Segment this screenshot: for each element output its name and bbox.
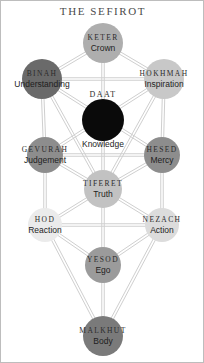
sefirah-meaning-tiferet: Truth	[93, 189, 113, 199]
sefirah-name-binah: BINAH	[27, 69, 58, 78]
sefirah-meaning-hokhmah: Inspiration	[144, 79, 183, 89]
sefirah-meaning-hod: Reaction	[28, 225, 62, 235]
sefirah-node-keter[interactable]: KETERCrown	[83, 23, 123, 63]
sefirah-meaning-gevurah: Judgement	[24, 155, 67, 165]
sefirah-node-hokhmah[interactable]: HOKHMAHInspiration	[140, 59, 189, 99]
sefirot-path-hod-nezach	[45, 224, 162, 227]
sefirah-name-tiferet: TIFERET	[83, 179, 123, 188]
tree-of-life-svg: KETERCrownBINAHUnderstandingHOKHMAHInspi…	[1, 1, 204, 363]
sefirah-name-hokhmah: HOKHMAH	[140, 69, 189, 78]
sefirah-node-nezach[interactable]: NEZACHAction	[143, 208, 182, 242]
sefirah-name-keter: KETER	[87, 33, 118, 42]
sefirah-node-yesod[interactable]: YESODEgo	[85, 247, 121, 283]
sefirah-meaning-daat: Knowledge	[82, 139, 124, 149]
sefirah-meaning-hesed: Mercy	[150, 155, 174, 165]
sefirah-name-gevurah: GEVURAH	[22, 145, 68, 154]
sefirah-node-daat[interactable]: DAATKnowledge	[82, 90, 124, 149]
sefirah-name-hesed: HESED	[146, 145, 177, 154]
sefirah-name-nezach: NEZACH	[143, 215, 182, 224]
sefirah-meaning-yesod: Ego	[95, 265, 110, 275]
sefirah-meaning-binah: Understanding	[14, 79, 70, 89]
sefirah-node-malkhut[interactable]: MALKHUTBody	[79, 316, 126, 356]
sefirah-name-hod: HOD	[35, 215, 55, 224]
sefirah-meaning-nezach: Action	[150, 225, 174, 235]
sefirah-meaning-keter: Crown	[91, 43, 116, 53]
sefirah-name-daat: DAAT	[90, 90, 117, 99]
sefirah-node-hod[interactable]: HODReaction	[28, 208, 62, 242]
sefirot-diagram-page: THE SEFIROT KETERCrownBINAHUnderstanding…	[0, 0, 204, 363]
sefirah-name-malkhut: MALKHUT	[79, 326, 126, 335]
sefirah-name-yesod: YESOD	[87, 255, 119, 264]
sefirah-meaning-malkhut: Body	[93, 336, 113, 346]
sefirah-node-gevurah[interactable]: GEVURAHJudgement	[22, 137, 68, 173]
sefirah-node-hesed[interactable]: HESEDMercy	[144, 137, 180, 173]
sefirah-node-tiferet[interactable]: TIFERETTruth	[83, 170, 123, 208]
sefirah-circle-daat[interactable]	[82, 99, 124, 141]
